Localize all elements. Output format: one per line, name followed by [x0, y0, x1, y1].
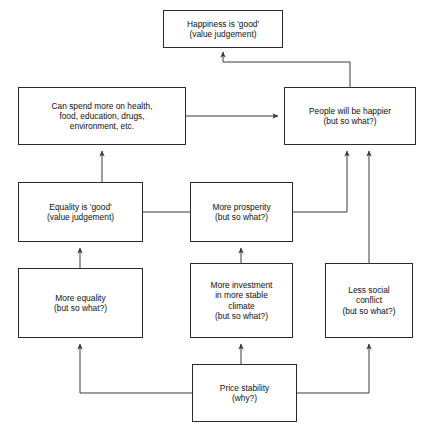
node-happiness_good: Happiness is 'good' (value judgement): [163, 10, 283, 48]
node-label-more_investment: More investment in more stable climate (…: [208, 280, 276, 321]
node-more_prosperity: More prosperity (but so what?): [190, 182, 293, 242]
node-label-can_spend_more: Can spend more on health, food, educatio…: [48, 101, 155, 132]
node-price_stability: Price stability (why?): [192, 364, 297, 422]
node-can_spend_more: Can spend more on health, food, educatio…: [18, 87, 186, 145]
node-label-happiness_good: Happiness is 'good' (value judgement): [184, 19, 262, 40]
node-label-less_social_conflict: Less social conflict (but so what?): [339, 285, 398, 316]
node-label-equality_good: Equality is 'good' (value judgement): [44, 202, 117, 223]
node-people_happier: People will be happier (but so what?): [284, 87, 416, 145]
connector-price-stability-to-less-social-conflict: [297, 344, 369, 393]
node-label-more_prosperity: More prosperity (but so what?): [209, 202, 273, 223]
node-equality_good: Equality is 'good' (value judgement): [18, 182, 143, 242]
connector-price-stability-to-more-equality: [80, 344, 192, 393]
node-more_investment: More investment in more stable climate (…: [190, 263, 293, 338]
connector-people-happier-to-happiness-good: [223, 52, 350, 87]
flowchart-diagram: Happiness is 'good' (value judgement)Can…: [0, 0, 434, 436]
node-more_equality: More equality (but so what?): [18, 268, 143, 338]
node-less_social_conflict: Less social conflict (but so what?): [325, 263, 413, 338]
node-label-more_equality: More equality (but so what?): [51, 293, 110, 314]
connector-more-prosperity-to-people-happier: [293, 151, 347, 212]
node-label-price_stability: Price stability (why?): [217, 383, 272, 404]
node-label-people_happier: People will be happier (but so what?): [306, 106, 394, 127]
